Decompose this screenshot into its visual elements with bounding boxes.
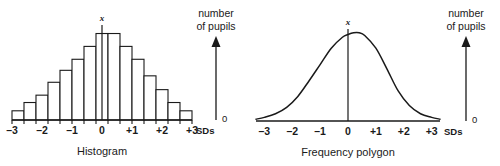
frequency-polygon-y-axis-arrowhead	[462, 36, 471, 47]
histogram-bar	[48, 82, 60, 120]
frequency-polygon-x-tick-label: –2	[286, 125, 298, 137]
histogram-y-axis-title-line1: number	[198, 7, 234, 19]
frequency-polygon-y-axis-origin-label: 0	[472, 114, 477, 125]
frequency-polygon-y-axis-title-line2: of pupils	[446, 20, 485, 32]
histogram-panel: x –3–2–10+1+2+3 SDs number of pupils 0 H…	[0, 0, 250, 166]
histogram-bar	[132, 59, 144, 120]
histogram-bar	[72, 59, 84, 120]
histogram-bar	[84, 46, 96, 120]
frequency-polygon-mean-marker: x	[345, 17, 351, 27]
frequency-polygon-x-tick-labels: –3–2–10+1+2+3	[259, 125, 438, 137]
frequency-polygon-caption: Frequency polygon	[301, 146, 395, 158]
histogram-x-tick-labels: –3–2–10+1+2+3	[6, 124, 198, 136]
histogram-bar	[144, 76, 156, 120]
statistics-figure: x –3–2–10+1+2+3 SDs number of pupils 0 H…	[0, 0, 500, 166]
frequency-polygon-x-tick-label: 0	[345, 125, 351, 137]
frequency-polygon-y-axis-title-line1: number	[448, 7, 484, 19]
frequency-polygon-x-unit-label: SDs	[444, 126, 462, 137]
histogram-bar	[108, 34, 120, 120]
histogram-mean-marker: x	[99, 13, 105, 23]
frequency-polygon-x-tick-label: +3	[426, 125, 438, 137]
frequency-polygon-x-tick-label: –1	[314, 125, 326, 137]
frequency-polygon-svg: x –3–2–10+1+2+3 SDs number of pupils 0 F…	[250, 0, 500, 166]
histogram-x-tick-label: +1	[126, 124, 138, 136]
histogram-bar	[180, 111, 192, 120]
histogram-bar	[168, 103, 180, 120]
histogram-y-axis-arrowhead	[212, 36, 221, 47]
histogram-x-tick-label: –1	[66, 124, 78, 136]
histogram-x-tick-label: +2	[156, 124, 168, 136]
histogram-bar	[156, 90, 168, 120]
frequency-polygon-x-tick-label: +2	[398, 125, 410, 137]
histogram-bar	[120, 46, 132, 120]
histogram-x-tick-label: –2	[36, 124, 48, 136]
histogram-y-axis-title-line2: of pupils	[196, 20, 235, 32]
histogram-caption: Histogram	[77, 145, 127, 157]
histogram-x-tick-label: 0	[99, 124, 105, 136]
histogram-x-tick-label: –3	[6, 124, 18, 136]
histogram-bar	[36, 95, 48, 120]
histogram-bar	[12, 111, 24, 120]
histogram-y-axis-origin-label: 0	[222, 113, 227, 124]
frequency-polygon-x-tick-label: –3	[259, 125, 271, 137]
histogram-bar	[24, 103, 36, 120]
frequency-polygon-panel: x –3–2–10+1+2+3 SDs number of pupils 0 F…	[250, 0, 500, 166]
histogram-svg: x –3–2–10+1+2+3 SDs number of pupils 0 H…	[0, 0, 250, 166]
frequency-polygon-x-tick-label: +1	[370, 125, 382, 137]
histogram-x-unit-label: SDs	[196, 125, 214, 136]
histogram-bar	[60, 70, 72, 120]
